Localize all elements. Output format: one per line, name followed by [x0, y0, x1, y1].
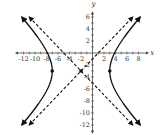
marked-point — [79, 69, 83, 73]
x-tick-label: 2 — [102, 55, 106, 63]
y-tick-label: 4 — [86, 25, 90, 33]
x-tick-label: 6 — [125, 55, 129, 63]
chart-canvas: -12-10-8-6-4-22468642-2-4-6-8-10-12 x y — [0, 0, 161, 135]
marked-points — [50, 69, 111, 73]
y-tick-label: 2 — [86, 37, 90, 45]
hyperbola-left-branch — [22, 17, 52, 125]
y-tick-label: -12 — [80, 121, 90, 129]
x-tick-label: 4 — [113, 55, 117, 63]
x-tick-label: 8 — [136, 55, 140, 63]
x-tick-label: -6 — [55, 55, 61, 63]
x-tick-label: -10 — [30, 55, 40, 63]
y-tick-label: -8 — [84, 97, 90, 105]
hyperbola-right-branch — [110, 17, 140, 125]
marked-point — [108, 69, 112, 73]
marked-point — [50, 69, 54, 73]
x-tick-label: -12 — [18, 55, 28, 63]
y-axis-label: y — [91, 0, 97, 8]
hyperbola-chart: -12-10-8-6-4-22468642-2-4-6-8-10-12 x y — [0, 0, 161, 135]
x-axis-label: x — [150, 49, 154, 57]
y-tick-label: -10 — [80, 109, 90, 117]
y-tick-label: -6 — [84, 85, 90, 93]
y-tick-label: 6 — [86, 13, 90, 21]
